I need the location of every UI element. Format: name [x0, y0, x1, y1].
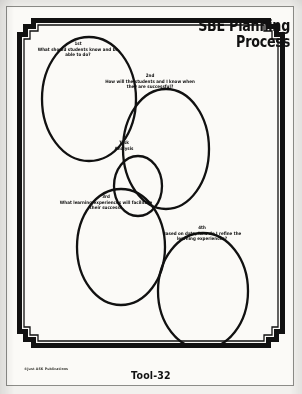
- label-step-3: 3rd What learning experiences will facil…: [55, 194, 157, 211]
- sbe-planning-diagram: [17, 18, 285, 348]
- title-line-2: Process: [167, 34, 290, 50]
- page-title: SBE Planning Process: [167, 18, 290, 50]
- label-task-analysis: Task Analysis: [103, 140, 145, 151]
- label-step-3-question: What learning experiences will facilitat…: [55, 200, 157, 211]
- label-step-2: 2nd How will the students and I know whe…: [102, 73, 197, 90]
- label-step-4-question: Based on data, how do I refine the learn…: [156, 231, 248, 242]
- label-step-1-question: What should students know and be able to…: [32, 47, 124, 58]
- tool-number-label: Tool-32: [15, 369, 287, 381]
- worksheet-page: SBE Planning Process 1st What should stu…: [0, 0, 302, 394]
- ellipse-step-4: [158, 233, 248, 348]
- label-task-analysis-line-2: Analysis: [103, 146, 145, 152]
- label-step-1: 1st What should students know and be abl…: [32, 41, 124, 58]
- label-step-4: 4th Based on data, how do I refine the l…: [156, 225, 248, 242]
- label-step-2-question: How will the students and I know when th…: [102, 79, 197, 90]
